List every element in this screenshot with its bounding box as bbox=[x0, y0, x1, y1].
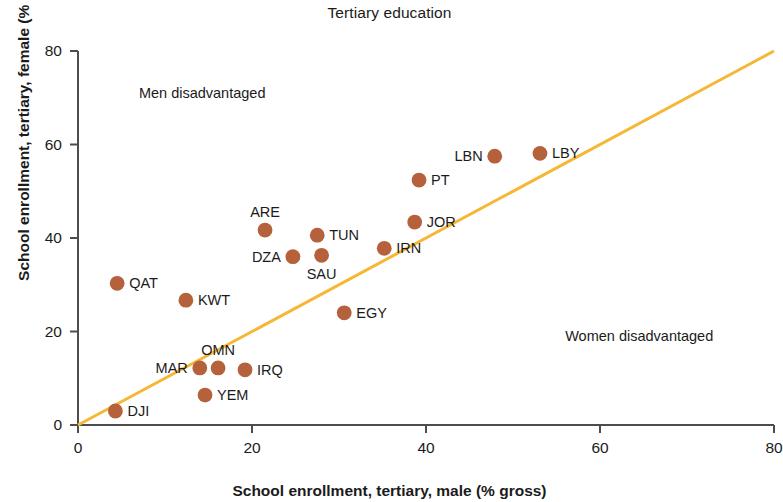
point-label-are: ARE bbox=[250, 205, 280, 220]
data-point-egy bbox=[337, 305, 352, 320]
point-label-tun: TUN bbox=[329, 228, 359, 243]
data-point-dza bbox=[285, 249, 300, 264]
point-label-kwt: KWT bbox=[198, 293, 230, 308]
data-point-sau bbox=[314, 248, 329, 263]
data-point-irq bbox=[238, 362, 253, 377]
point-label-egy: EGY bbox=[356, 306, 387, 321]
x-tick-label: 60 bbox=[591, 439, 608, 457]
point-label-lby: LBY bbox=[552, 146, 579, 161]
point-label-pt: PT bbox=[431, 173, 450, 188]
x-tick-label: 80 bbox=[765, 439, 782, 457]
data-point-qat bbox=[110, 276, 125, 291]
point-label-qat: QAT bbox=[129, 276, 158, 291]
point-label-sau: SAU bbox=[307, 267, 337, 282]
point-label-jor: JOR bbox=[427, 215, 456, 230]
data-points-group bbox=[108, 146, 547, 418]
data-point-lbn bbox=[487, 149, 502, 164]
data-point-kwt bbox=[178, 293, 193, 308]
data-point-lby bbox=[533, 146, 548, 161]
data-point-jor bbox=[407, 215, 422, 230]
data-point-tun bbox=[310, 228, 325, 243]
data-point-mar bbox=[192, 361, 207, 376]
x-tick-label: 0 bbox=[74, 439, 83, 457]
data-point-omn bbox=[211, 361, 226, 376]
data-point-yem bbox=[198, 388, 213, 403]
data-point-irn bbox=[377, 241, 392, 256]
y-axis-title: School enrollment, tertiary, female (% g… bbox=[15, 0, 33, 317]
point-label-omn: OMN bbox=[201, 343, 235, 358]
point-label-irq: IRQ bbox=[257, 363, 283, 378]
x-axis-title: School enrollment, tertiary, male (% gro… bbox=[0, 482, 779, 500]
annotation-women-disadvantaged: Women disadvantaged bbox=[565, 328, 713, 344]
point-label-yem: YEM bbox=[217, 388, 248, 403]
point-label-irn: IRN bbox=[396, 241, 421, 256]
data-point-are bbox=[258, 223, 273, 238]
point-label-dza: DZA bbox=[252, 249, 281, 264]
x-tick-label: 40 bbox=[417, 439, 434, 457]
point-label-mar: MAR bbox=[156, 361, 188, 376]
data-point-dji bbox=[108, 404, 123, 419]
point-label-dji: DJI bbox=[127, 404, 149, 419]
data-point-pt bbox=[412, 173, 427, 188]
annotation-men-disadvantaged: Men disadvantaged bbox=[139, 85, 266, 101]
y-tick-label: 0 bbox=[0, 416, 62, 434]
y-tick-label: 20 bbox=[0, 323, 62, 341]
x-tick-label: 20 bbox=[243, 439, 260, 457]
point-label-lbn: LBN bbox=[455, 149, 483, 164]
